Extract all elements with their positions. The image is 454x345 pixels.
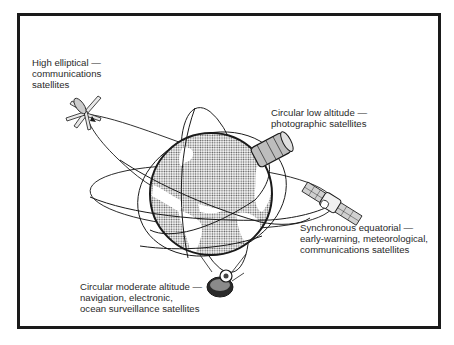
label-line: Synchronous equatorial —: [300, 222, 428, 233]
label-synchronous-equatorial: Synchronous equatorial — early-warning, …: [300, 222, 428, 255]
orbit-diagram: [0, 0, 454, 345]
label-line: photographic satellites: [271, 118, 367, 129]
label-line: early-warning, meteorological,: [300, 233, 428, 244]
label-circular-low-altitude: Circular low altitude — photographic sat…: [271, 107, 367, 129]
label-line: High elliptical —: [32, 57, 101, 68]
label-line: communications satellites: [300, 244, 428, 255]
low-altitude-satellite-icon: [250, 130, 296, 168]
label-circular-moderate-altitude: Circular moderate altitude — navigation,…: [80, 281, 202, 314]
high-elliptical-satellite-icon: [66, 96, 101, 130]
moderate-altitude-satellite-icon: [207, 270, 244, 297]
moderate-orbit-lines: [200, 254, 246, 272]
label-line: Circular moderate altitude —: [80, 281, 202, 292]
label-line: Circular low altitude —: [271, 107, 367, 118]
label-line: ocean surveillance satellites: [80, 303, 202, 314]
label-high-elliptical: High elliptical — communications satelli…: [32, 57, 101, 90]
label-line: navigation, electronic,: [80, 292, 202, 303]
label-line: satellites: [32, 79, 101, 90]
label-line: communications: [32, 68, 101, 79]
